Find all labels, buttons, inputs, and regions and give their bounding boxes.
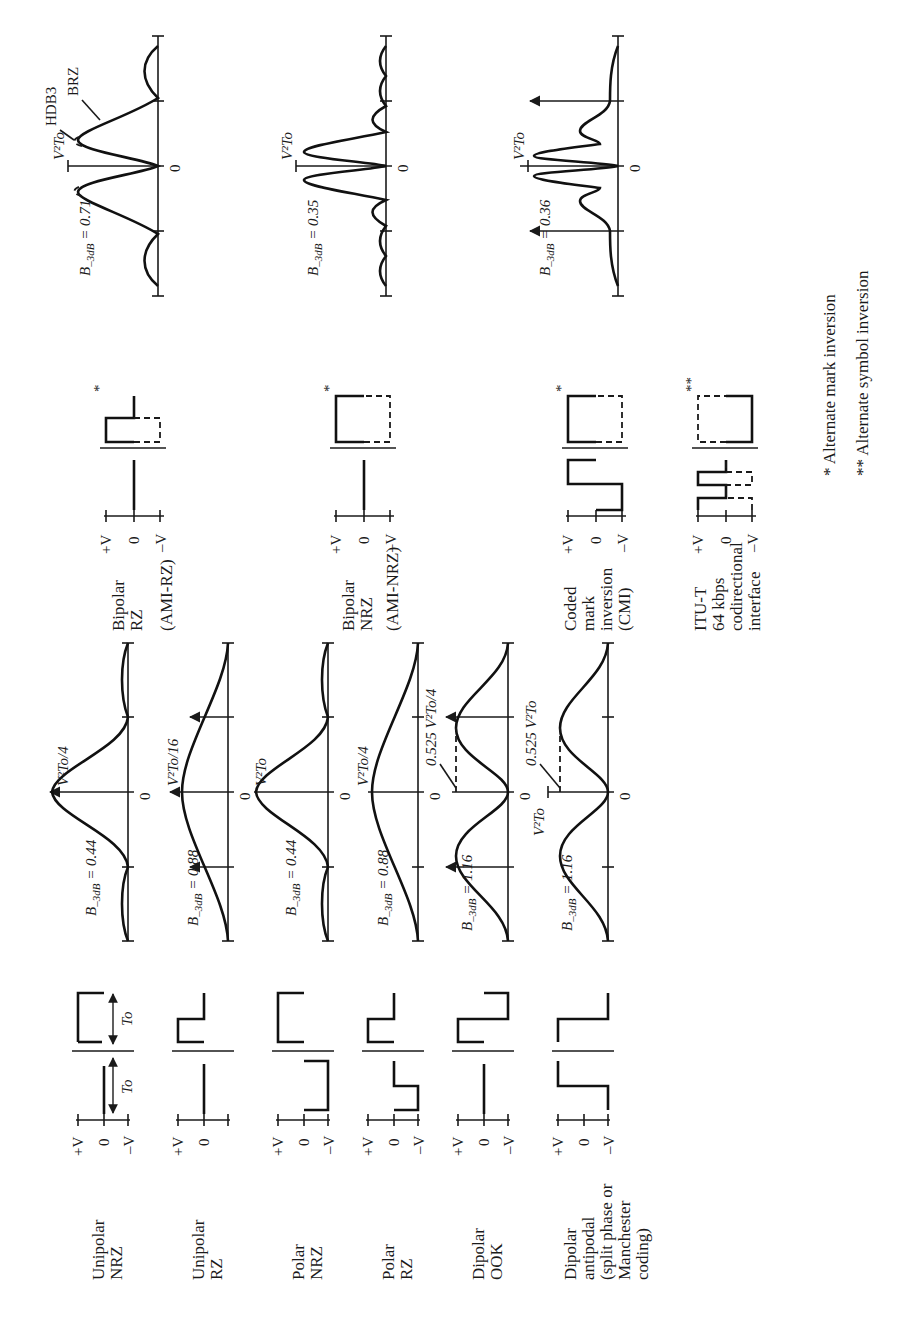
code-label: (AMI-RZ) (157, 559, 176, 631)
tick-zero: 0 (167, 165, 183, 173)
psd-bipolar-rz: B–3dB = 0.71 V²To HDB3 BRZ 0 (43, 36, 183, 296)
bandwidth-label: B–3dB = 0.35 (305, 199, 324, 276)
code-label: mark (579, 596, 598, 631)
code-label: RZ (127, 609, 146, 631)
level-zero: 0 (718, 537, 734, 545)
code-label: Coded (561, 586, 580, 631)
row-bipolar-rz: Bipolar RZ (AMI-RZ) +V 0 –V * (91, 385, 176, 632)
level-zero: 0 (356, 537, 372, 545)
code-label: ITU-T (691, 586, 710, 631)
footnote-marker: * (321, 385, 337, 393)
bandwidth-label: B–3dB = 0.36 (537, 199, 556, 276)
footnote-marker: ** (683, 377, 699, 392)
row-bipolar-nrz: Bipolar NRZ (AMI-NRZ) +V 0 –V * (321, 385, 402, 632)
peak-label: V²To (279, 131, 295, 160)
code-label: 64 kbps (709, 578, 728, 631)
level-minus-v: –V (153, 534, 169, 554)
code-label: (AMI-NRZ) (383, 547, 402, 631)
level-minus-v: –V (745, 534, 761, 554)
level-minus-v: –V (615, 534, 631, 554)
psd-cmi: B–3dB = 0.36 V²To 0 (511, 36, 643, 296)
code-label: Bipolar (339, 580, 358, 631)
level-plus-v: +V (328, 535, 344, 554)
right-canvas: Bipolar RZ (AMI-RZ) +V 0 –V * Bipolar NR… (0, 0, 921, 1326)
footnote-marker: * (91, 385, 107, 393)
level-minus-v: –V (383, 534, 399, 554)
footnote-ami: * Alternate mark inversion (820, 294, 839, 476)
right-block: Bipolar RZ (AMI-RZ) +V 0 –V * Bipolar NR… (0, 0, 921, 1326)
code-label: Bipolar (109, 580, 128, 631)
curve-label-brz: BRZ (65, 67, 81, 96)
code-label: codirectional (727, 542, 746, 631)
footnote-marker: * (553, 385, 569, 393)
bandwidth-label: B–3dB = 0.71 (77, 200, 96, 276)
tick-zero: 0 (395, 165, 411, 173)
level-plus-v: +V (98, 535, 114, 554)
peak-label: V²To (511, 131, 527, 160)
row-cmi: Coded mark inversion (CMI) +V 0 –V * (553, 385, 634, 632)
level-zero: 0 (588, 537, 604, 545)
row-itu-t: ITU-T 64 kbps codirectional interface +V… (683, 377, 764, 631)
level-zero: 0 (126, 537, 142, 545)
code-label: (CMI) (615, 588, 634, 631)
level-plus-v: +V (560, 535, 576, 554)
code-label: interface (745, 572, 764, 631)
footnote-asi: ** Alternate symbol inversion (853, 270, 872, 476)
curve-label-hdb3: HDB3 (43, 87, 59, 126)
code-label: NRZ (357, 597, 376, 631)
level-plus-v: +V (690, 535, 706, 554)
peak-label: V²To (51, 131, 67, 160)
psd-bipolar-nrz: B–3dB = 0.35 V²To 0 (279, 36, 411, 296)
tick-zero: 0 (627, 165, 643, 173)
code-label: inversion (597, 567, 616, 631)
